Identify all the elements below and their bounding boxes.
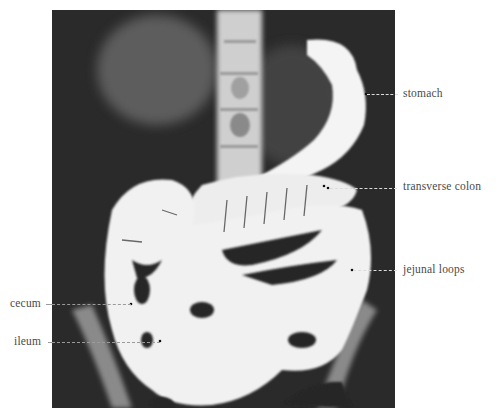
jejunal-loops-leader-line: [353, 270, 397, 271]
label-ileum: ileum: [14, 335, 41, 348]
label-transverse-colon: transverse colon: [403, 180, 481, 193]
xray-figure: [52, 10, 395, 408]
cecum-leader-line: [52, 304, 131, 305]
cecum-leader-outside: [46, 304, 52, 305]
transverse-colon-leader-line: [330, 188, 397, 189]
ileum-leader-line: [52, 342, 160, 343]
ileum-leader-outside: [48, 342, 52, 343]
label-stomach: stomach: [403, 87, 443, 100]
xray-image: [52, 10, 395, 408]
label-jejunal-loops: jejunal loops: [403, 263, 465, 276]
stomach-leader-line: [367, 94, 398, 95]
label-cecum: cecum: [10, 297, 41, 310]
